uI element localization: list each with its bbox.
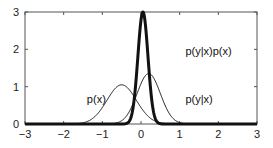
x-tick-label: 3 <box>254 128 260 140</box>
x-tick-label: 2 <box>215 128 221 140</box>
curve-label: p(y|x)p(x) <box>185 45 231 57</box>
x-tick-label: −1 <box>96 128 109 140</box>
y-tick-label: 3 <box>13 6 19 18</box>
density-chart: −3−2−101230123 p(x)p(y|x)p(y|x)p(x) <box>0 0 273 148</box>
curve-label: p(y|x) <box>185 93 212 105</box>
y-tick-label: 2 <box>13 43 19 55</box>
y-tick-label: 1 <box>13 81 19 93</box>
curve-label: p(x) <box>87 93 106 105</box>
x-tick-label: −3 <box>19 128 32 140</box>
y-tick-label: 0 <box>13 118 19 130</box>
x-tick-label: 0 <box>138 128 144 140</box>
x-tick-label: −2 <box>57 128 70 140</box>
x-tick-label: 1 <box>177 128 183 140</box>
